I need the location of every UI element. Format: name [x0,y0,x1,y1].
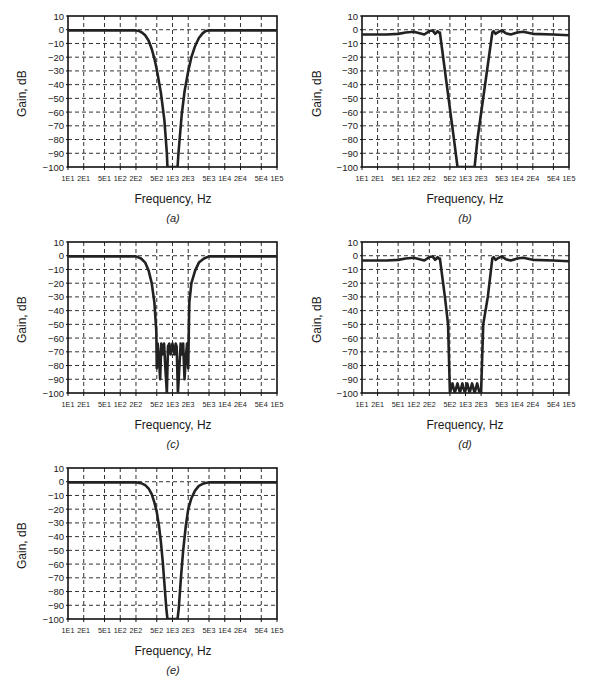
svg-text:1E3: 1E3 [166,400,179,409]
svg-text:2E4: 2E4 [234,400,247,409]
svg-text:2E4: 2E4 [234,626,247,635]
svg-text:−70: −70 [342,346,358,357]
y-tick-labels: 100−10−20−30−40−50−60−70−80−90−100 [43,237,68,399]
svg-text:1E1: 1E1 [62,174,75,183]
svg-text:−90: −90 [48,600,64,611]
svg-text:2E1: 2E1 [77,400,90,409]
x-tick-labels: 1E12E15E11E22E25E21E32E35E31E42E45E41E5 [356,393,576,409]
x-axis-label-e: Frequency, Hz [108,644,238,658]
svg-text:5E2: 5E2 [444,174,457,183]
x-tick-labels: 1E12E15E11E22E25E21E32E35E31E42E45E41E5 [356,167,576,183]
gridlines [362,16,569,167]
svg-text:0: 0 [59,24,64,35]
svg-text:−40: −40 [48,79,64,90]
svg-text:−20: −20 [342,278,358,289]
svg-text:−30: −30 [342,291,358,302]
x-axis-label-d: Frequency, Hz [400,418,530,432]
y-tick-labels: 100−10−20−30−40−50−60−70−80−90−100 [337,237,362,399]
chart-panel-e: 100−10−20−30−40−50−60−70−80−90−1001E12E1… [0,460,295,688]
y-axis-label-a: Gain, dB [15,57,29,117]
y-tick-labels: 100−10−20−30−40−50−60−70−80−90−100 [43,463,68,625]
svg-text:5E3: 5E3 [203,174,216,183]
y-tick-labels: 100−10−20−30−40−50−60−70−80−90−100 [337,11,362,173]
svg-text:5E3: 5E3 [495,174,508,183]
svg-text:−10: −10 [48,490,64,501]
gridlines [68,242,277,393]
svg-text:2E3: 2E3 [182,400,195,409]
svg-text:2E2: 2E2 [423,174,436,183]
svg-text:1E4: 1E4 [218,626,231,635]
svg-text:2E2: 2E2 [130,174,143,183]
svg-text:10: 10 [53,237,64,248]
svg-text:−60: −60 [48,333,64,344]
svg-text:1E5: 1E5 [271,174,284,183]
svg-text:−60: −60 [48,107,64,118]
svg-text:−100: −100 [337,388,358,399]
svg-text:−10: −10 [342,264,358,275]
svg-text:2E4: 2E4 [526,400,539,409]
panel-label-c: (c) [153,438,193,450]
svg-text:−70: −70 [48,120,64,131]
svg-text:−30: −30 [48,291,64,302]
y-tick-labels: 100−10−20−30−40−50−60−70−80−90−100 [43,11,68,173]
panel-label-d: (d) [445,438,485,450]
svg-text:1E5: 1E5 [271,626,284,635]
x-tick-labels: 1E12E15E11E22E25E21E32E35E31E42E45E41E5 [62,393,284,409]
svg-text:1E3: 1E3 [459,400,472,409]
svg-text:−80: −80 [48,586,64,597]
svg-text:0: 0 [59,476,64,487]
svg-text:5E4: 5E4 [547,400,560,409]
svg-text:−100: −100 [43,162,64,173]
y-axis-label-c: Gain, dB [15,283,29,343]
svg-text:1E2: 1E2 [114,626,127,635]
svg-text:2E1: 2E1 [77,174,90,183]
svg-text:−70: −70 [342,120,358,131]
svg-text:−90: −90 [48,148,64,159]
y-axis-label-e: Gain, dB [15,509,29,569]
svg-text:1E3: 1E3 [459,174,472,183]
svg-text:0: 0 [59,250,64,261]
figure-caption-faint [195,680,445,686]
svg-text:−100: −100 [337,162,358,173]
svg-text:5E3: 5E3 [203,400,216,409]
svg-text:1E4: 1E4 [511,174,524,183]
svg-text:2E3: 2E3 [182,174,195,183]
svg-text:2E2: 2E2 [423,400,436,409]
svg-text:5E3: 5E3 [495,400,508,409]
svg-text:−20: −20 [342,52,358,63]
x-tick-labels: 1E12E15E11E22E25E21E32E35E31E42E45E41E5 [62,619,284,635]
x-axis-label-c: Frequency, Hz [108,418,238,432]
gridlines [68,468,277,619]
svg-text:1E2: 1E2 [114,400,127,409]
svg-text:−80: −80 [48,134,64,145]
svg-text:10: 10 [347,237,358,248]
svg-text:5E1: 5E1 [98,400,111,409]
svg-text:−60: −60 [48,559,64,570]
svg-text:5E4: 5E4 [255,400,268,409]
x-axis-label-a: Frequency, Hz [108,192,238,206]
svg-text:2E1: 2E1 [77,626,90,635]
svg-text:1E5: 1E5 [563,400,576,409]
chart-panel-a: 100−10−20−30−40−50−60−70−80−90−1001E12E1… [0,0,295,230]
svg-text:1E2: 1E2 [407,174,420,183]
svg-text:5E2: 5E2 [150,626,163,635]
svg-text:−80: −80 [342,134,358,145]
svg-text:1E2: 1E2 [114,174,127,183]
svg-text:−40: −40 [48,305,64,316]
svg-text:1E2: 1E2 [407,400,420,409]
gridlines [362,242,569,393]
svg-text:2E2: 2E2 [130,626,143,635]
svg-text:10: 10 [53,11,64,22]
svg-text:1E5: 1E5 [271,400,284,409]
svg-text:2E3: 2E3 [475,174,488,183]
svg-text:−70: −70 [48,346,64,357]
svg-text:5E2: 5E2 [150,174,163,183]
svg-text:−20: −20 [48,504,64,515]
svg-text:1E3: 1E3 [166,174,179,183]
svg-text:−30: −30 [342,65,358,76]
svg-text:−10: −10 [48,264,64,275]
svg-text:5E2: 5E2 [444,400,457,409]
svg-text:5E1: 5E1 [392,400,405,409]
svg-text:5E1: 5E1 [98,626,111,635]
svg-text:5E2: 5E2 [150,400,163,409]
